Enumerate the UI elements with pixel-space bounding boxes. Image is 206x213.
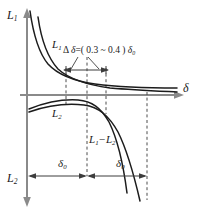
y-axis-arrow-down-icon <box>23 197 31 207</box>
delta-delta-arrow-right-icon <box>101 67 109 72</box>
delta-delta-annotation: Δ δ=( 0.3 ~ 0.4 ) δ0 <box>63 46 135 56</box>
delta-zero-dimension-group <box>28 173 147 178</box>
curve-label-l1-minus-l2: L1−L2 <box>89 134 116 145</box>
x-axis-group <box>20 91 184 99</box>
x-axis-label: δ <box>183 82 189 94</box>
curve-l1-minus-l2 <box>29 104 140 201</box>
delta-zero-right-arrow-end-icon <box>139 173 147 178</box>
dimension-label-delta-zero-right: δ0 <box>116 158 125 169</box>
annotation-leader-right <box>88 57 99 69</box>
delta-zero-left-arrow-start-icon <box>28 173 36 178</box>
delta-zero-left-arrow-end-icon <box>79 173 87 178</box>
y-axis-top-label: L1 <box>7 9 17 21</box>
curve-l2 <box>29 100 127 193</box>
figure-container: L1 L2 δ L1 L2 L1−L2 Δ δ=( 0.3 ~ 0.4 ) δ0… <box>0 0 206 213</box>
figure-svg <box>0 0 206 213</box>
dimension-label-delta-zero-left: δ0 <box>58 158 67 169</box>
delta-zero-right-arrow-start-icon <box>87 173 95 178</box>
y-axis-group <box>23 8 31 207</box>
delta-delta-arrow-left-icon <box>63 67 71 72</box>
delta-delta-dimension-group <box>63 57 109 74</box>
y-axis-bottom-label: L2 <box>7 172 17 184</box>
curve-label-l1: L1 <box>52 39 62 50</box>
annotation-leader-left <box>71 57 78 69</box>
curve-label-l2: L2 <box>52 108 62 119</box>
